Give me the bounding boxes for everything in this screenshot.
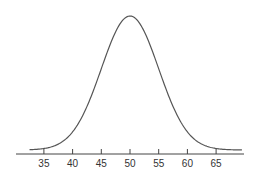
x-tick-label: 40 [67,158,79,169]
x-tick-label: 55 [153,158,165,169]
x-tick-label: 45 [96,158,108,169]
x-tick-label: 60 [182,158,194,169]
x-axis-ticks: 35404550556065 [38,149,222,169]
x-tick-label: 50 [124,158,136,169]
x-tick-label: 35 [38,158,50,169]
normal-curve [30,16,242,150]
bell-curve-chart: 35404550556065 [0,0,258,182]
x-tick-label: 65 [211,158,223,169]
